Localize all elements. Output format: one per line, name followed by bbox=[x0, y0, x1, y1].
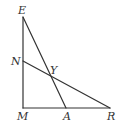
label-e: E bbox=[17, 4, 26, 17]
geometry-diagram: E N Y M A R bbox=[0, 0, 121, 131]
segment-ea bbox=[23, 17, 66, 108]
label-n: N bbox=[10, 55, 21, 68]
label-m: M bbox=[16, 110, 29, 123]
segment-nr bbox=[23, 61, 110, 108]
label-a: A bbox=[62, 110, 71, 123]
label-y: Y bbox=[50, 64, 59, 77]
label-r: R bbox=[106, 110, 115, 123]
